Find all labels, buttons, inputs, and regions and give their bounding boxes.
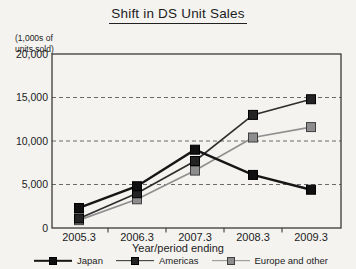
series-marker-japan <box>75 203 84 212</box>
legend-marker-europe-and-other-icon <box>212 255 250 266</box>
y-axis-tick-label: 5,000 <box>22 178 48 190</box>
legend-item-americas: Americas <box>116 255 199 266</box>
y-axis-tick-label: 0 <box>42 222 48 234</box>
y-axis-tick-label: 10,000 <box>16 135 48 147</box>
series-marker-europe-and-other <box>249 133 258 142</box>
series-marker-americas <box>191 157 200 166</box>
legend-marker-americas-icon <box>116 255 154 266</box>
plot-area: 05,00010,00015,00020,000(1,000s ofunits … <box>0 0 356 252</box>
series-marker-europe-and-other <box>307 123 316 132</box>
x-axis-tick-label: 2008.3 <box>236 231 270 243</box>
series-marker-americas <box>307 95 316 104</box>
x-axis-title: Year/period ending <box>0 243 356 254</box>
legend-item-europe-and-other: Europe and other <box>212 255 328 266</box>
legend-marker-japan-icon <box>34 255 72 266</box>
series-marker-japan <box>249 170 258 179</box>
legend-label: Japan <box>77 256 103 266</box>
legend: JapanAmericasEurope and other <box>6 255 356 266</box>
y-axis-unit-label: units sold) <box>15 44 54 54</box>
legend-label: Americas <box>159 256 199 266</box>
series-marker-japan <box>133 182 142 191</box>
x-axis-tick-label: 2009.3 <box>294 231 328 243</box>
series-marker-americas <box>75 214 84 223</box>
series-marker-americas <box>249 110 258 119</box>
x-axis-tick-label: 2005.3 <box>62 231 96 243</box>
y-axis-unit-label: (1,000s of <box>15 33 53 43</box>
series-marker-europe-and-other <box>191 166 200 175</box>
y-axis-tick-label: 15,000 <box>16 91 48 103</box>
series-marker-japan <box>191 145 200 154</box>
series-marker-japan <box>307 185 316 194</box>
chart-canvas: Shift in DS Unit Sales 05,00010,00015,00… <box>0 0 356 269</box>
legend-item-japan: Japan <box>34 255 103 266</box>
legend-label: Europe and other <box>255 256 328 266</box>
